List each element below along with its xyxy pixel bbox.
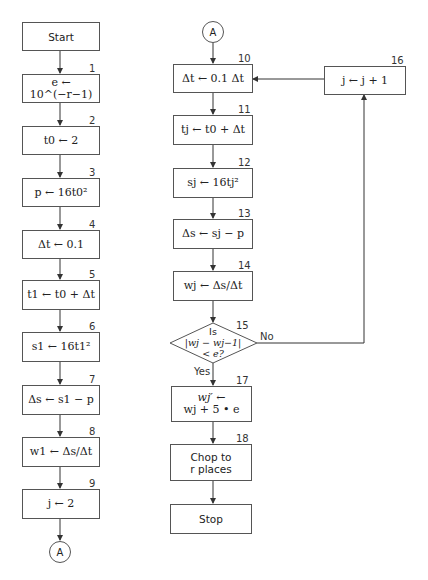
step-number-13: 13 [238,208,251,219]
step-text-12: sj ← 16tj² [187,177,239,189]
step-box-2: t0 ← 2 [22,126,100,155]
step-box-16: j ← j + 1 [324,66,406,95]
step-text-6: s1 ← 16t1² [32,341,91,353]
step-number-3: 3 [89,167,95,178]
step-number-12: 12 [238,157,251,168]
stop-label: Stop [199,513,223,525]
step-text-8: w1 ← Δs/Δt [30,446,92,458]
step-number-11: 11 [238,104,251,115]
step-box-7: Δs ← s1 − p [22,385,100,415]
step-box-5: t1 ← t0 + Δt [22,280,100,310]
start-label: Start [48,31,74,43]
step-text-11: tj ← t0 + Δt [181,124,245,136]
stop-terminal: Stop [170,504,252,534]
step-box-17: wj′ ← wj + 5 • e [171,386,252,422]
yes-branch-label: Yes [194,366,210,377]
connector-label: A [57,547,64,558]
step-text-14: wj ← Δs/Δt [184,280,243,292]
step-box-14: wj ← Δs/Δt [173,271,253,301]
step-number-2: 2 [89,115,95,126]
start-terminal: Start [22,22,100,51]
connector-label: A [210,27,217,38]
step-box-6: s1 ← 16t1² [22,332,100,362]
step-text-4: Δt ← 0.1 [38,239,84,251]
step-box-12: sj ← 16tj² [173,168,253,198]
step-number-1: 1 [89,63,95,74]
step-number-16: 16 [391,55,404,66]
step-number-10: 10 [238,53,251,64]
step-text-9: j ← 2 [48,498,75,510]
step-number-5: 5 [89,269,95,280]
step-box-13: Δs ← sj − p [173,219,253,249]
step-text-3: p ← 16t0² [34,187,87,199]
offpage-connector-a-out: A [49,541,71,563]
step-number-14: 14 [238,260,251,271]
step-box-11: tj ← t0 + Δt [173,115,253,145]
step-text-17-line2: wj + 5 • e [183,404,239,416]
step-number-6: 6 [89,321,95,332]
step-box-9: j ← 2 [22,489,100,519]
decision-line-3: < e? [178,348,248,359]
step-box-4: Δt ← 0.1 [22,230,100,259]
step-number-9: 9 [89,478,95,489]
step-text-18-line1: Chop to [191,451,232,463]
step-text-18-line2: r places [190,463,231,475]
step-number-4: 4 [89,219,95,230]
offpage-connector-a-in: A [202,21,224,43]
step-box-10: Δt ← 0.1 Δt [173,64,253,93]
step-text-2: t0 ← 2 [44,135,79,147]
decision-diamond-15: Is |wj − wj−1| < e? [178,326,248,359]
no-branch-label: No [260,331,274,342]
step-text-10: Δt ← 0.1 Δt [182,73,244,85]
step-box-1: e ← 10^(−r−1) [22,74,100,103]
step-box-18: Chop to r places [170,444,252,481]
decision-line-1: Is [178,326,248,337]
step-text-13: Δs ← sj − p [182,228,244,240]
step-box-3: p ← 16t0² [22,178,100,207]
step-number-18: 18 [236,433,249,444]
step-number-7: 7 [89,374,95,385]
step-text-16: j ← j + 1 [342,75,388,87]
step-text-1: e ← 10^(−r−1) [23,77,99,101]
step-box-8: w1 ← Δs/Δt [22,437,100,467]
decision-line-2: |wj − wj−1| [178,337,248,348]
step-text-7: Δs ← s1 − p [28,394,94,406]
step-text-5: t1 ← t0 + Δt [27,289,95,301]
step-number-17: 17 [236,375,249,386]
step-number-8: 8 [89,426,95,437]
